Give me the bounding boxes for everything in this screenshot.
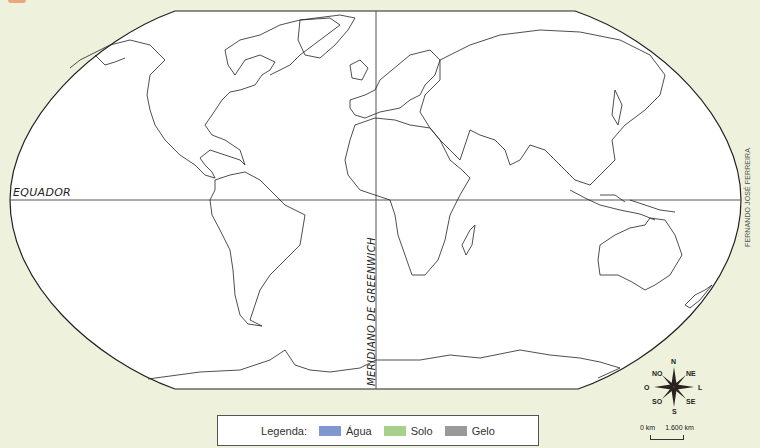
legend-title: Legenda: [261,425,307,437]
ice-swatch-icon [445,426,467,436]
map-credit: FERNANDO JOSÉ FERREIRA [744,148,751,247]
scale-bar-line [650,435,684,440]
greenwich-meridian-label: MERIDIANO DE GREENWICH [366,237,377,386]
legend-item-gelo: Gelo [439,425,495,437]
compass-l: L [698,384,702,391]
soil-swatch-icon [384,426,406,436]
legend-item-agua: Água [313,425,372,437]
scale-end: 1.600 km [665,424,694,431]
compass-so: SO [652,398,662,405]
compass-ne: NE [686,370,696,377]
equator-label: EQUADOR [13,186,71,199]
compass-o: O [644,384,649,391]
compass-s: S [672,408,677,415]
compass-n: N [671,358,676,365]
compass-no: NO [652,370,663,377]
scale-start: 0 km [640,424,655,431]
compass-rose: N NE L SE S SO O NO [644,360,704,416]
legend-item-solo: Solo [378,425,433,437]
legend-box: Legenda: Água Solo Gelo [217,415,539,446]
compass-se: SE [686,398,695,405]
water-swatch-icon [319,426,341,436]
scale-bar: 0 km 1.600 km [640,424,694,431]
